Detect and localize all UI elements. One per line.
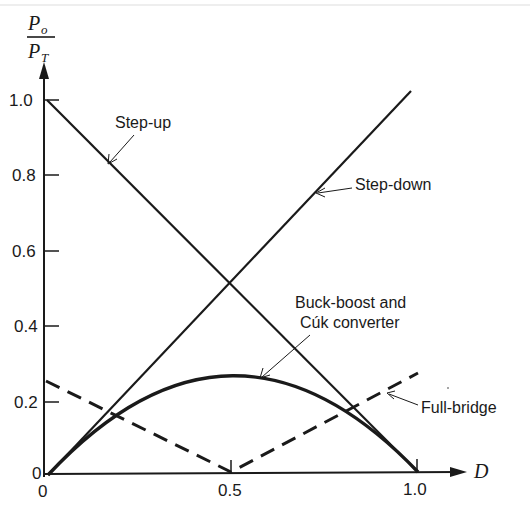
x-axis-label: D <box>473 460 489 482</box>
y-label-numerator-sub: o <box>41 22 48 37</box>
y-label-numerator: P <box>27 12 40 34</box>
x-tick-label: 0.5 <box>218 481 242 500</box>
x-tick-labels: 0 0.5 1.0 <box>38 480 427 501</box>
y-tick-label: 0.2 <box>14 393 38 412</box>
y-tick-label: 0.8 <box>12 166 36 185</box>
annotation-leader <box>389 394 418 405</box>
annotation-label: Cúk converter <box>300 314 400 331</box>
annotation-label: Buck-boost and <box>295 294 406 311</box>
annotation-step-up: Step-up <box>108 114 171 164</box>
annotation-leader <box>110 135 134 162</box>
y-label-denominator-sub: T <box>41 50 49 65</box>
axes: D <box>39 62 489 482</box>
annotation-label: Full-bridge <box>421 399 497 416</box>
annotation-label: Step-down <box>355 176 432 193</box>
x-ticks <box>231 459 417 473</box>
y-tick-label: 1.0 <box>9 91 33 110</box>
annotation-label: Step-up <box>115 114 171 131</box>
series-buck-boost-cuk <box>48 376 418 475</box>
y-tick-labels: 1.0 0.8 0.6 0.4 0.2 0 <box>9 91 41 483</box>
x-tick-label: 0 <box>38 482 47 501</box>
y-tick-label: 0 <box>32 464 41 483</box>
y-tick-label: 0.4 <box>14 317 38 336</box>
chart: P o P T D 1.0 0.8 0.6 0.4 0.2 0 0 0.5 1.… <box>0 0 530 516</box>
y-label-denominator: P <box>27 40 40 62</box>
y-tick-label: 0.6 <box>12 242 36 261</box>
y-axis-label: P o P T <box>27 12 55 65</box>
y-ticks <box>44 100 59 402</box>
x-tick-label: 1.0 <box>403 480 427 499</box>
annotation-step-down: Step-down <box>316 176 432 197</box>
scan-speck <box>447 387 449 389</box>
x-axis-arrow-icon <box>450 467 467 477</box>
annotation-full-bridge: Full-bridge <box>387 391 497 416</box>
x-axis <box>44 472 460 474</box>
